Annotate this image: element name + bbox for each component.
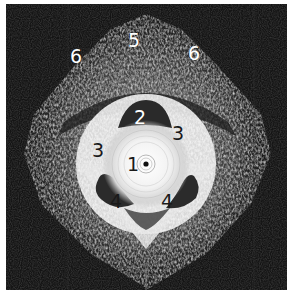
label-2: 2	[134, 108, 146, 127]
probe-center-dot	[143, 161, 148, 166]
label-3-left: 3	[92, 141, 104, 160]
label-4-left: 4	[110, 192, 122, 211]
label-1: 1	[127, 155, 139, 174]
label-4-right: 4	[161, 192, 173, 211]
ultrasound-rendering	[6, 4, 287, 290]
label-6-right: 6	[188, 44, 200, 63]
label-3-right: 3	[172, 124, 184, 143]
label-6-left: 6	[70, 47, 82, 66]
label-5: 5	[128, 31, 140, 50]
ultrasound-image: 5 6 6 2 3 3 1 4 4	[6, 4, 287, 290]
